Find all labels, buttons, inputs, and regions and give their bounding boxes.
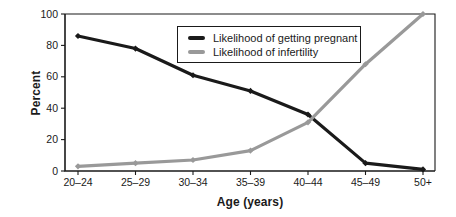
y-tick-label: 0 xyxy=(52,165,58,177)
pregnant-line-swatch-icon xyxy=(188,36,205,40)
fertility-by-age-chart: 02040608010020–2425–2930–3435–3940–4445–… xyxy=(0,0,456,217)
y-tick-label: 60 xyxy=(46,70,58,82)
legend: Likelihood of getting pregnant Likelihoo… xyxy=(177,26,361,63)
x-tick-label: 35–39 xyxy=(236,176,265,188)
x-tick-label: 25–29 xyxy=(121,176,150,188)
legend-label-pregnant: Likelihood of getting pregnant xyxy=(213,32,357,44)
data-point xyxy=(190,157,196,163)
y-tick-label: 20 xyxy=(46,133,58,145)
infertility-line-swatch-icon xyxy=(188,50,205,54)
y-tick-label: 100 xyxy=(40,8,58,20)
y-axis-title: Percent xyxy=(29,35,43,151)
x-tick-label: 30–34 xyxy=(178,176,207,188)
data-point xyxy=(132,160,138,166)
x-tick-label: 40–44 xyxy=(293,176,322,188)
data-point xyxy=(75,163,81,169)
y-tick-label: 40 xyxy=(46,102,58,114)
x-tick-label: 50+ xyxy=(414,176,432,188)
y-tick-label: 80 xyxy=(46,39,58,51)
legend-item-infertility: Likelihood of infertility xyxy=(188,45,360,59)
legend-label-infertility: Likelihood of infertility xyxy=(213,46,318,58)
legend-item-pregnant: Likelihood of getting pregnant xyxy=(188,31,360,45)
x-tick-label: 45–49 xyxy=(351,176,380,188)
data-point xyxy=(75,33,81,39)
x-axis-title: Age (years) xyxy=(65,195,435,209)
x-tick-label: 20–24 xyxy=(63,176,92,188)
